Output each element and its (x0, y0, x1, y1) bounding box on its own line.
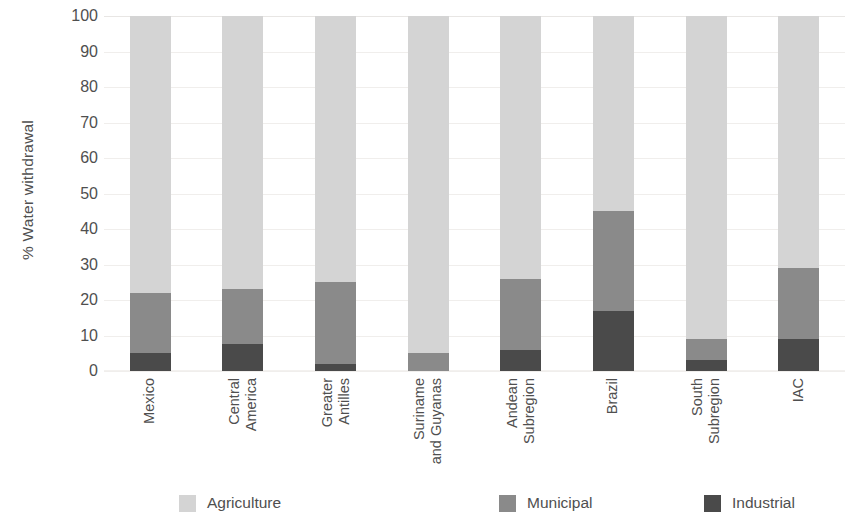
y-axis-tick-label: 60 (80, 150, 98, 166)
legend-swatch-icon (499, 495, 516, 512)
bar-stack (686, 16, 727, 371)
y-axis-tick-label: 90 (80, 44, 98, 60)
x-axis-tick-label-line: IAC (790, 378, 807, 402)
bar-stack (778, 16, 819, 371)
x-axis-tick-label-line: Andean (504, 378, 521, 444)
x-axis-tick-label: GreaterAntilles (289, 378, 382, 482)
bar-group[interactable] (222, 16, 263, 371)
bar-stack (408, 16, 449, 371)
x-axis-tick-label-line: Subregion (706, 378, 723, 444)
legend-label: Municipal (527, 494, 592, 512)
x-axis-tick-label-line: Suriname (411, 378, 428, 464)
x-axis-tick-label-text: AndeanSubregion (504, 378, 538, 444)
bar-stack (222, 16, 263, 371)
bar-segment-industrial[interactable] (778, 339, 819, 371)
bar-segment-municipal[interactable] (315, 282, 356, 364)
x-axis-tick-label: IAC (752, 378, 845, 482)
bar-group[interactable] (686, 16, 727, 371)
bar-group[interactable] (408, 16, 449, 371)
legend-label: Agriculture (207, 494, 281, 512)
x-axis-tick-label: SouthSubregion (660, 378, 753, 482)
x-axis-tick-label-text: Mexico (142, 378, 159, 424)
bar-segment-industrial[interactable] (500, 350, 541, 371)
legend-label: Industrial (732, 494, 795, 512)
y-axis-tick-labels: 0102030405060708090100 (52, 0, 98, 380)
bar-segment-agriculture[interactable] (778, 16, 819, 268)
x-axis-tick-label-line: Central (226, 378, 243, 431)
x-axis-tick-label-line: Subregion (521, 378, 538, 444)
bar-group[interactable] (130, 16, 171, 371)
x-axis-tick-label-line: Antilles (336, 378, 353, 427)
bar-series-container (104, 16, 845, 371)
bar-stack (593, 16, 634, 371)
bar-segment-industrial[interactable] (130, 353, 171, 371)
x-axis-tick-label-text: Surinameand Guyanas (411, 378, 445, 464)
bar-segment-municipal[interactable] (130, 293, 171, 353)
bar-group[interactable] (315, 16, 356, 371)
bar-group[interactable] (500, 16, 541, 371)
x-axis-tick-label: Brazil (567, 378, 660, 482)
bar-group[interactable] (593, 16, 634, 371)
bar-segment-industrial[interactable] (315, 364, 356, 371)
bar-segment-agriculture[interactable] (222, 16, 263, 289)
y-axis-title-text: % Water withdrawal (19, 120, 37, 260)
bar-segment-agriculture[interactable] (593, 16, 634, 211)
x-axis-tick-label-text: GreaterAntilles (318, 378, 352, 427)
bar-stack (130, 16, 171, 371)
legend-item-agriculture[interactable]: Agriculture (179, 494, 281, 512)
y-axis-tick-label: 10 (80, 328, 98, 344)
y-axis-tick-label: 30 (80, 257, 98, 273)
legend-item-industrial[interactable]: Industrial (704, 494, 795, 512)
y-axis-tick-label: 20 (80, 292, 98, 308)
bar-group[interactable] (778, 16, 819, 371)
bar-segment-industrial[interactable] (686, 360, 727, 371)
x-axis-tick-label-line: and Guyanas (428, 378, 445, 464)
x-axis-tick-label-text: CentralAmerica (226, 378, 260, 431)
bar-segment-municipal[interactable] (778, 268, 819, 339)
bar-segment-municipal[interactable] (500, 279, 541, 350)
y-axis-tick-label: 50 (80, 186, 98, 202)
bar-segment-agriculture[interactable] (500, 16, 541, 279)
bar-segment-agriculture[interactable] (408, 16, 449, 353)
x-axis-tick-label: Surinameand Guyanas (382, 378, 475, 482)
y-axis-tick-label: 40 (80, 221, 98, 237)
bar-segment-municipal[interactable] (408, 353, 449, 371)
bar-segment-municipal[interactable] (686, 339, 727, 360)
x-axis-tick-label-text: IAC (790, 378, 807, 402)
bar-segment-agriculture[interactable] (130, 16, 171, 293)
x-axis-tick-label-line: Brazil (605, 378, 622, 414)
x-axis-tick-label: Mexico (104, 378, 197, 482)
legend-swatch-icon (179, 495, 196, 512)
gridline (104, 371, 845, 372)
chart-legend: AgricultureMunicipalIndustrial (104, 490, 845, 516)
bar-segment-agriculture[interactable] (686, 16, 727, 339)
bar-segment-industrial[interactable] (222, 344, 263, 371)
x-axis-tick-label-text: Brazil (605, 378, 622, 414)
y-axis-tick-label: 100 (71, 8, 98, 24)
x-axis-tick-label-text: SouthSubregion (689, 378, 723, 444)
bar-segment-industrial[interactable] (593, 311, 634, 371)
legend-swatch-icon (704, 495, 721, 512)
x-axis-tick-label-line: America (243, 378, 260, 431)
bar-segment-agriculture[interactable] (315, 16, 356, 282)
y-axis-tick-label: 80 (80, 79, 98, 95)
x-axis-tick-label: CentralAmerica (197, 378, 290, 482)
x-axis-tick-label-line: Greater (318, 378, 335, 427)
y-axis-tick-label: 70 (80, 115, 98, 131)
bar-stack (500, 16, 541, 371)
legend-item-municipal[interactable]: Municipal (499, 494, 592, 512)
bar-segment-municipal[interactable] (222, 289, 263, 344)
x-axis-tick-label-line: Mexico (142, 378, 159, 424)
y-axis-tick-label: 0 (89, 363, 98, 379)
chart-figure: % Water withdrawal 010203040506070809010… (0, 0, 861, 524)
x-axis-tick-label-line: South (689, 378, 706, 444)
bar-stack (315, 16, 356, 371)
y-axis-title: % Water withdrawal (6, 0, 50, 380)
plot-area (104, 16, 845, 371)
x-axis-tick-label: AndeanSubregion (475, 378, 568, 482)
x-axis-tick-labels: MexicoCentralAmericaGreaterAntillesSurin… (104, 378, 845, 482)
bar-segment-municipal[interactable] (593, 211, 634, 310)
